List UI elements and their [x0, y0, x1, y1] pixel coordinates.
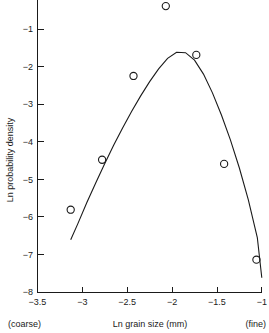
y-tick-label: −6 — [23, 212, 33, 222]
x-tick-marks — [38, 287, 262, 293]
y-tick-label: −1 — [23, 24, 33, 34]
data-point-marker — [221, 160, 228, 167]
x-tick-label: −1 — [257, 297, 267, 307]
data-point-marker — [162, 2, 169, 9]
fitted-curve — [71, 52, 262, 277]
x-axis-fine-annotation: (fine) — [245, 319, 266, 329]
x-tick-label: −3 — [77, 297, 87, 307]
chart-figure: −1 −2 −3 −4 −5 −6 −7 −8 −3.5 −3 −2.5 −2 … — [0, 0, 269, 333]
data-point-marker — [67, 206, 74, 213]
data-point-marker — [253, 256, 260, 263]
x-tick-label: −3.5 — [29, 297, 47, 307]
y-tick-label: −7 — [23, 250, 33, 260]
data-point-marker — [99, 156, 106, 163]
y-tick-marks — [38, 29, 44, 292]
x-tick-label: −2 — [167, 297, 177, 307]
y-tick-label: −5 — [23, 175, 33, 185]
y-tick-label: −4 — [23, 137, 33, 147]
data-point-marker — [193, 51, 200, 58]
x-tick-label: −1.5 — [208, 297, 226, 307]
data-point-marker — [130, 72, 137, 79]
axis-lines — [38, 0, 263, 293]
x-tick-label: −2.5 — [118, 297, 136, 307]
y-tick-labels: −1 −2 −3 −4 −5 −6 −7 −8 — [23, 24, 33, 297]
x-tick-labels: −3.5 −3 −2.5 −2 −1.5 −1 — [29, 297, 267, 307]
y-tick-label: −3 — [23, 99, 33, 109]
x-axis-title: Ln grain size (mm) — [113, 319, 188, 329]
x-axis-coarse-annotation: (coarse) — [8, 319, 41, 329]
y-axis-title: Ln probability density — [5, 117, 15, 202]
data-point-group — [67, 2, 260, 263]
y-tick-label: −2 — [23, 62, 33, 72]
scatter-plot-svg: −1 −2 −3 −4 −5 −6 −7 −8 −3.5 −3 −2.5 −2 … — [0, 0, 269, 333]
